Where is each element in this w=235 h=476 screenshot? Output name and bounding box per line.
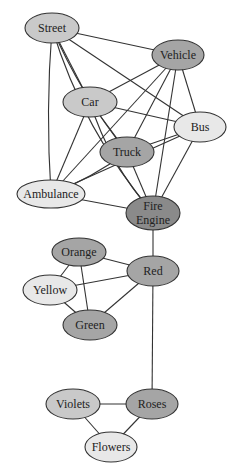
node-yellow-label: Yellow [33,283,67,297]
node-fire-engine: FireEngine [126,196,180,230]
node-fire-engine-label: Fire [143,199,162,213]
node-truck-label: Truck [113,145,141,159]
nodes-layer: StreetVehicleCarBusTruckAmbulanceFireEng… [17,13,226,462]
node-roses: Roses [126,389,178,419]
node-flowers: Flowers [85,432,137,462]
node-ambulance-label: Ambulance [23,187,78,201]
node-flowers-label: Flowers [92,440,131,454]
node-red: Red [127,256,179,286]
node-orange-label: Orange [61,245,96,259]
node-car-label: Car [81,95,98,109]
node-bus: Bus [174,112,226,142]
node-car: Car [63,87,117,117]
node-fire-engine-label-line2: Engine [136,213,170,227]
node-green-label: Green [75,318,104,332]
node-bus-label: Bus [191,120,210,134]
node-yellow: Yellow [23,275,77,305]
node-violets: Violets [46,389,100,419]
node-street: Street [25,13,79,43]
node-green: Green [63,310,117,340]
edge-red-roses [152,271,153,404]
node-red-label: Red [143,264,162,278]
node-vehicle-label: Vehicle [160,48,196,62]
node-roses-label: Roses [138,397,167,411]
node-street-label: Street [38,21,67,35]
edge-street-ambulance [48,28,52,194]
node-ambulance: Ambulance [17,180,85,208]
node-truck: Truck [100,137,154,167]
node-vehicle: Vehicle [152,40,204,70]
node-orange: Orange [52,238,106,266]
node-violets-label: Violets [56,397,90,411]
semantic-network-diagram: StreetVehicleCarBusTruckAmbulanceFireEng… [0,0,235,476]
